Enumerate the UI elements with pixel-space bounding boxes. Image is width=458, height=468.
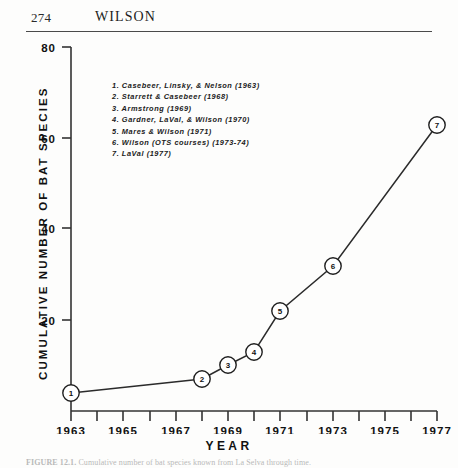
figure-caption: FIGURE 12.1. Cumulative number of bat sp… bbox=[26, 458, 438, 468]
legend-item: 7. LaVal (1977) bbox=[112, 148, 260, 159]
figure-caption-text: Cumulative number of bat species known f… bbox=[78, 458, 311, 467]
legend-item: 5. Mares & Wilson (1971) bbox=[112, 126, 260, 137]
x-tick-labels: 1963 1965 1967 1969 1971 1973 1975 1977 bbox=[56, 425, 452, 434]
svg-text:3: 3 bbox=[226, 361, 231, 370]
x-tick-label: 1971 bbox=[265, 425, 295, 434]
chart-legend: 1. Casebeer, Linsky, & Nelson (1963) 2. … bbox=[112, 80, 260, 160]
y-tick-label: 80 bbox=[41, 42, 56, 54]
legend-item: 6. Wilson (OTS courses) (1973-74) bbox=[112, 137, 260, 148]
y-tick-marks bbox=[62, 47, 71, 320]
page-number: 274 bbox=[31, 10, 51, 26]
data-point-2: 2 bbox=[194, 371, 210, 387]
page-header: 274 WILSON bbox=[0, 0, 458, 34]
svg-text:7: 7 bbox=[435, 121, 440, 130]
data-point-6: 6 bbox=[325, 258, 341, 274]
svg-text:6: 6 bbox=[331, 262, 336, 271]
legend-item: 4. Gardner, LaVal, & Wilson (1970) bbox=[112, 114, 260, 125]
x-tick-label: 1973 bbox=[318, 425, 348, 434]
svg-text:5: 5 bbox=[278, 307, 283, 316]
x-tick-label: 1975 bbox=[370, 425, 400, 434]
legend-item: 1. Casebeer, Linsky, & Nelson (1963) bbox=[112, 80, 260, 91]
data-point-3: 3 bbox=[220, 357, 236, 373]
x-tick-label: 1967 bbox=[161, 425, 191, 434]
svg-text:2: 2 bbox=[200, 375, 205, 384]
figure-caption-prefix: FIGURE 12.1. bbox=[26, 458, 76, 467]
legend-item: 3. Armstrong (1969) bbox=[112, 103, 260, 114]
data-point-4: 4 bbox=[246, 344, 262, 360]
svg-text:4: 4 bbox=[252, 348, 257, 357]
legend-item: 2. Starrett & Casebeer (1968) bbox=[112, 91, 260, 102]
x-tick-marks bbox=[71, 411, 437, 421]
x-tick-label: 1969 bbox=[213, 425, 243, 434]
y-axis-title: CUMULATIVE NUMBER OF BAT SPECIES bbox=[37, 100, 49, 380]
running-head: WILSON bbox=[95, 9, 156, 25]
data-point-5: 5 bbox=[272, 303, 288, 319]
x-tick-label: 1965 bbox=[108, 425, 138, 434]
x-axis-title: YEAR bbox=[0, 439, 458, 453]
header-divider bbox=[26, 31, 432, 32]
x-tick-label: 1963 bbox=[56, 425, 86, 434]
x-tick-label: 1977 bbox=[422, 425, 452, 434]
data-point-7: 7 bbox=[429, 117, 445, 133]
figure-bat-species-chart: 80 60 40 20 1963 1965 1967 bbox=[0, 34, 458, 468]
svg-text:1: 1 bbox=[69, 389, 74, 398]
data-point-1: 1 bbox=[63, 385, 79, 401]
